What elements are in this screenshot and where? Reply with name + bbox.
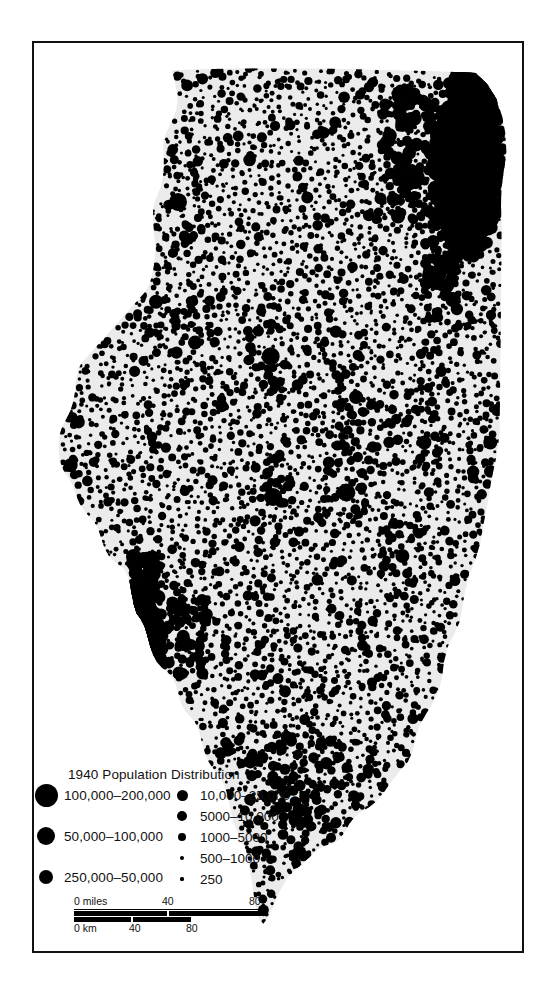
scalebar-miles-bar [74, 911, 262, 916]
scalebar-miles-tick-40: 40 [162, 896, 174, 907]
map-frame [32, 41, 524, 953]
scalebar-km-origin-label: 0 km [74, 923, 97, 934]
page-root: 1940 Population Distribution 100,000–200… [0, 0, 553, 988]
scalebar-km-tick-80: 80 [186, 923, 198, 934]
scale-bar: 0 miles 40 80 0 km 40 80 [74, 896, 264, 934]
scalebar-km-tick-40: 40 [129, 923, 141, 934]
illinois-dot-map [34, 43, 522, 951]
scalebar-top-rule [74, 909, 262, 910]
scalebar-miles-tick-80: 80 [249, 896, 261, 907]
scalebar-miles-labels: 0 miles 40 80 [74, 896, 264, 908]
scalebar-km-labels: 0 km 40 80 [74, 923, 264, 935]
scalebar-miles-origin-label: 0 miles [74, 896, 107, 907]
